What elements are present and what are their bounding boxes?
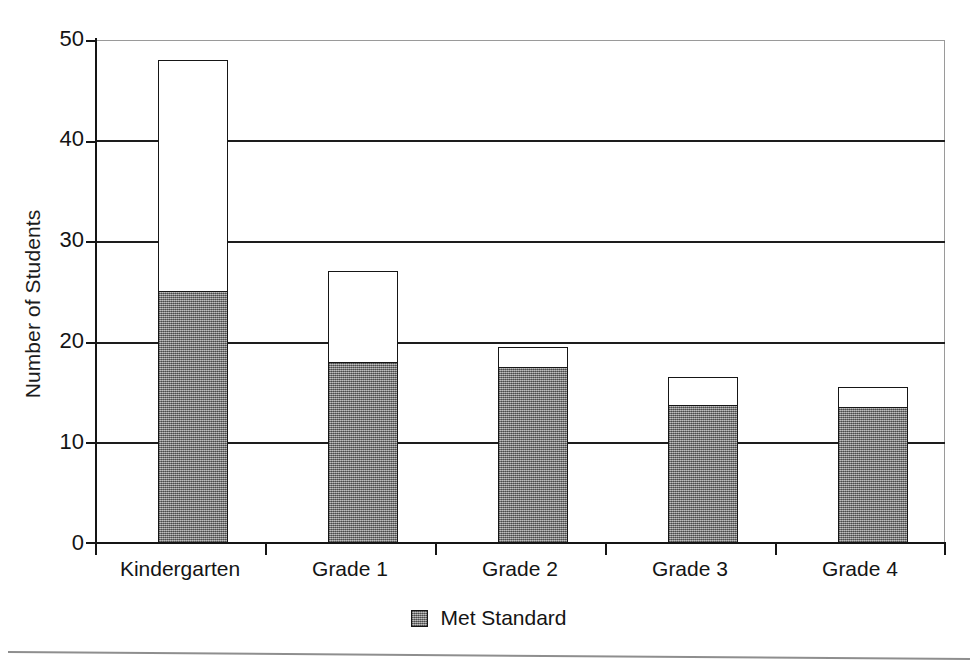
y-tick-label-40: 40 xyxy=(38,128,84,150)
bar-met-standard-grade-2 xyxy=(498,367,568,543)
bar-met-standard-grade-4 xyxy=(838,407,908,543)
chart-figure: Number of Students 50 40 30 20 10 0 xyxy=(0,0,978,670)
y-tick-label-0: 0 xyxy=(38,532,84,554)
x-tick-label-grade-4: Grade 4 xyxy=(775,557,945,581)
plot-area xyxy=(95,40,945,543)
legend-label-met-standard: Met Standard xyxy=(440,606,566,630)
bar-met-standard-grade-1 xyxy=(328,362,398,543)
x-tick-mark-3 xyxy=(605,544,607,555)
x-axis-line xyxy=(94,542,946,544)
y-tick-label-20: 20 xyxy=(38,330,84,352)
bar-met-standard-kindergarten xyxy=(158,291,228,543)
page-divider-rule xyxy=(8,651,970,660)
y-tick-label-50: 50 xyxy=(38,28,84,50)
plot-border-right xyxy=(944,40,945,543)
x-tick-mark-1 xyxy=(265,544,267,555)
y-axis-tick-labels: 50 40 30 20 10 0 xyxy=(38,0,84,670)
chart-legend: Met Standard xyxy=(0,606,978,630)
x-tick-label-grade-3: Grade 3 xyxy=(605,557,775,581)
y-tick-label-10: 10 xyxy=(38,431,84,453)
x-tick-label-kindergarten: Kindergarten xyxy=(95,557,265,581)
x-tick-label-grade-2: Grade 2 xyxy=(435,557,605,581)
gridline-50 xyxy=(95,40,945,41)
x-tick-mark-5 xyxy=(944,544,946,555)
x-tick-mark-4 xyxy=(775,544,777,555)
x-tick-label-grade-1: Grade 1 xyxy=(265,557,435,581)
y-tick-label-30: 30 xyxy=(38,229,84,251)
y-axis-line xyxy=(95,38,97,545)
x-tick-mark-2 xyxy=(435,544,437,555)
bar-met-standard-grade-3 xyxy=(668,405,738,543)
filled-square-icon xyxy=(411,610,428,627)
x-tick-mark-0 xyxy=(95,544,97,555)
